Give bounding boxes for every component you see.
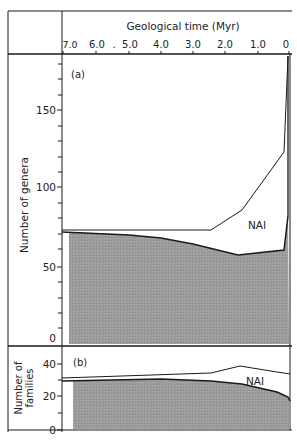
panel-a-nai-annotation: NAI xyxy=(248,219,266,231)
y-tick: 150 xyxy=(36,104,56,116)
chart-figure: Geological time (Myr) 7.0 6.0 . 5.0 4.0 … xyxy=(0,0,297,441)
x-tick: 2.0 xyxy=(217,39,233,50)
panel-b: (b) NAI 40 20 0 Number of families xyxy=(13,357,290,436)
x-tick: 4.0 xyxy=(153,39,169,50)
panel-b-y-axis-label-line1: Number of xyxy=(13,361,24,414)
panel-b-y-axis-label-line2: families xyxy=(24,368,35,407)
panel-b-label: (b) xyxy=(73,357,87,368)
panel-a-y-axis-label: Number of genera xyxy=(18,157,30,253)
y-tick: 40 xyxy=(43,358,56,370)
x-tick: 0 xyxy=(283,39,289,50)
x-axis-ticks: 7.0 6.0 . 5.0 4.0 3.0 2.0 1.0 0 xyxy=(62,39,289,50)
x-tick: 6.0 xyxy=(89,39,105,50)
x-tick: . xyxy=(112,39,115,50)
panel-a-label: (a) xyxy=(71,69,85,80)
y-tick: 20 xyxy=(43,390,56,402)
y-tick: 0 xyxy=(49,332,56,344)
panel-a-shaded-area xyxy=(69,216,289,344)
panel-b-y-ticks xyxy=(57,364,62,430)
x-tick: 1.0 xyxy=(250,39,266,50)
x-tick: 5.0 xyxy=(122,39,138,50)
x-axis-title: Geological time (Myr) xyxy=(126,20,239,32)
x-tick: 3.0 xyxy=(185,39,201,50)
y-tick: 100 xyxy=(36,181,56,193)
y-tick: 50 xyxy=(43,261,56,273)
panel-a-y-ticks xyxy=(57,64,62,328)
y-tick: 0 xyxy=(49,424,56,436)
panel-a: (a) NAI 150 100 50 0 Number of genera xyxy=(18,56,289,344)
x-tick: 7.0 xyxy=(62,39,77,50)
panel-b-nai-annotation: NAI xyxy=(246,375,264,387)
panel-a-upper-line xyxy=(62,56,288,230)
